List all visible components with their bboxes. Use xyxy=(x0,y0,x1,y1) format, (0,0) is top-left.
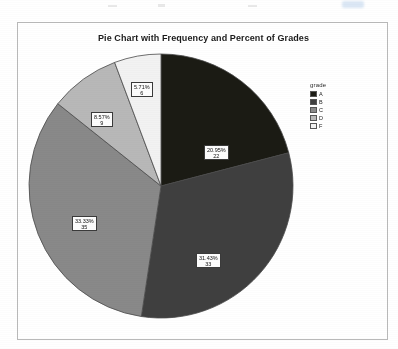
pie-chart-svg xyxy=(18,23,389,341)
legend-item-d: D xyxy=(310,114,370,122)
legend-swatch-a xyxy=(310,91,317,98)
slice-label-a-count: 22 xyxy=(207,153,226,159)
slice-label-b-count: 33 xyxy=(199,261,218,267)
legend-swatch-b xyxy=(310,99,317,106)
scan-artifact-mark xyxy=(108,5,117,7)
slice-label-b: 31.43% 33 xyxy=(196,253,221,268)
scan-artifact-mark xyxy=(248,5,257,7)
legend-item-a: A xyxy=(310,90,370,98)
slice-label-d-count: 9 xyxy=(94,120,110,126)
legend-item-f: F xyxy=(310,122,370,130)
legend-items: ABCDF xyxy=(310,90,370,130)
slice-label-a: 20.95% 22 xyxy=(204,145,229,160)
scan-artifact-blue-box xyxy=(342,1,364,8)
legend-swatch-d xyxy=(310,115,317,122)
slice-label-d: 8.57% 9 xyxy=(91,112,113,127)
scan-artifact-mark xyxy=(158,4,165,7)
legend-label-b: B xyxy=(319,99,323,106)
chart-legend: grade ABCDF xyxy=(310,82,370,130)
slice-label-f-count: 6 xyxy=(134,90,150,96)
legend-label-c: C xyxy=(319,107,323,114)
legend-label-a: A xyxy=(319,91,323,98)
legend-title: grade xyxy=(310,82,370,88)
legend-label-f: F xyxy=(319,123,322,130)
slice-label-c-count: 35 xyxy=(75,224,94,230)
legend-label-d: D xyxy=(319,115,323,122)
legend-item-b: B xyxy=(310,98,370,106)
legend-swatch-c xyxy=(310,107,317,114)
chart-frame: Pie Chart with Frequency and Percent of … xyxy=(17,22,388,340)
pie-chart xyxy=(18,23,389,341)
pie-slices xyxy=(29,54,293,318)
scan-artifacts xyxy=(0,0,398,16)
legend-item-c: C xyxy=(310,106,370,114)
slice-label-f: 5.71% 6 xyxy=(131,82,153,97)
slice-label-c: 33.33% 35 xyxy=(72,216,97,231)
legend-swatch-f xyxy=(310,123,317,130)
